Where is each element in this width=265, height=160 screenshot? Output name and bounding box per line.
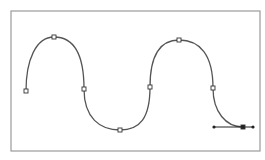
handle-endpoint[interactable] <box>251 125 254 128</box>
anchor-point[interactable] <box>148 85 152 89</box>
artboard-frame <box>11 11 260 151</box>
anchor-point[interactable] <box>177 38 181 42</box>
selected-anchor-point[interactable] <box>241 125 245 129</box>
anchor-point[interactable] <box>118 128 122 132</box>
path-editor-canvas[interactable] <box>0 0 265 160</box>
anchor-point[interactable] <box>82 87 86 91</box>
anchor-point[interactable] <box>52 35 56 39</box>
anchor-point[interactable] <box>24 89 28 93</box>
handle-endpoint[interactable] <box>212 125 215 128</box>
anchor-point[interactable] <box>211 86 215 90</box>
